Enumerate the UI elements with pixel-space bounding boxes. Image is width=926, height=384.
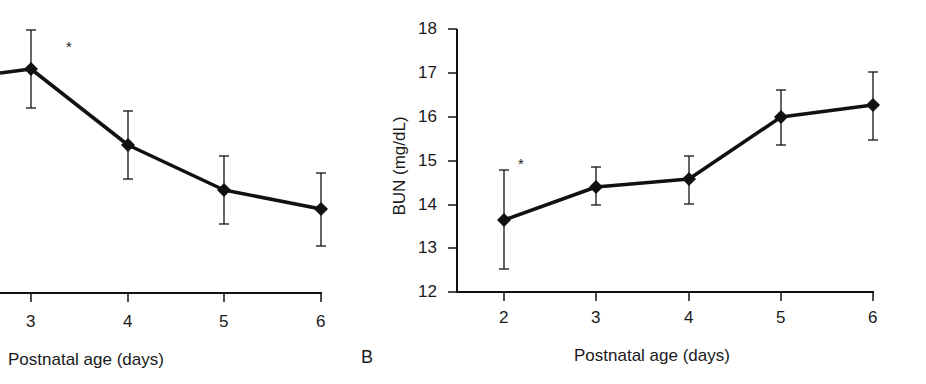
- x-tick-a-4: 4: [123, 312, 132, 332]
- y-tick-b-14: 14: [418, 195, 437, 215]
- x-axis-label-a: Postnatal age (days): [8, 350, 164, 370]
- y-tick-b-17: 17: [418, 63, 437, 83]
- panel-label-b: B: [361, 347, 373, 368]
- x-tick-a-3: 3: [26, 312, 35, 332]
- asterisk-a: *: [66, 38, 72, 55]
- panel-b: [448, 29, 880, 301]
- error-bars-b: [499, 72, 878, 269]
- y-tick-b-18: 18: [418, 19, 437, 39]
- y-tick-b-15: 15: [418, 151, 437, 171]
- x-tick-a-5: 5: [219, 312, 228, 332]
- x-tick-b-6: 6: [868, 308, 877, 328]
- data-markers-a: [24, 62, 328, 216]
- x-tick-b-3: 3: [591, 308, 600, 328]
- y-tick-b-16: 16: [418, 107, 437, 127]
- x-tick-b-2: 2: [499, 308, 508, 328]
- panel-a: [0, 30, 328, 302]
- x-axis-label-b: Postnatal age (days): [574, 346, 730, 366]
- data-line-a: [0, 69, 321, 209]
- x-tick-a-6: 6: [316, 312, 325, 332]
- error-bars-a: [26, 30, 326, 246]
- x-tick-b-5: 5: [776, 308, 785, 328]
- x-tick-b-4: 4: [684, 308, 693, 328]
- y-tick-b-12: 12: [418, 282, 437, 302]
- y-tick-b-13: 13: [418, 238, 437, 258]
- chart-canvas: [0, 0, 926, 384]
- asterisk-b: *: [518, 155, 524, 172]
- y-axis-label-b: BUN (mg/dL): [390, 111, 410, 221]
